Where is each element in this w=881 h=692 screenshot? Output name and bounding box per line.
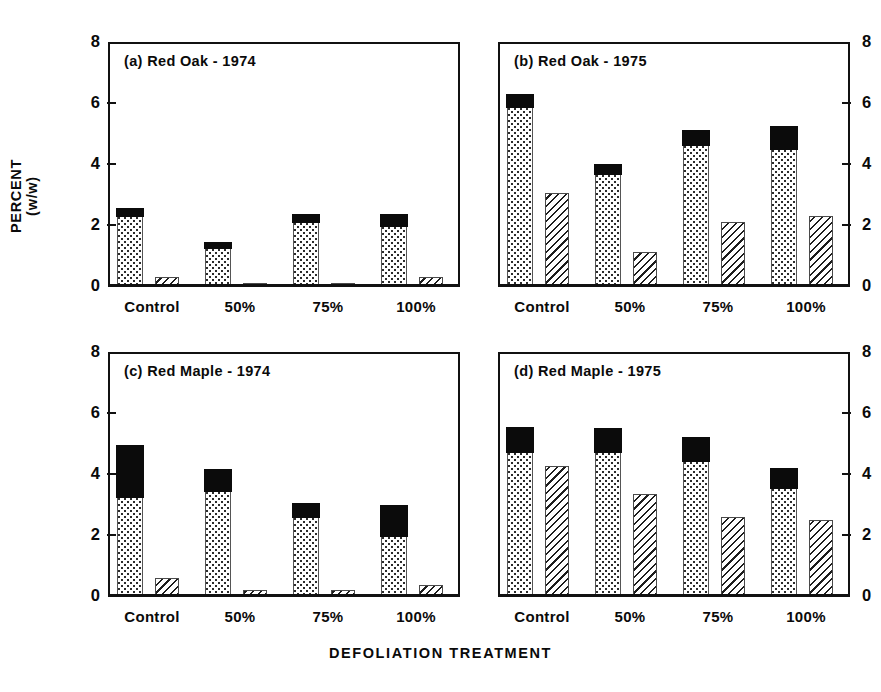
bar-black-a-0 <box>116 208 144 217</box>
bar-black-b-2 <box>682 130 710 145</box>
y-tick-c-4 <box>107 473 116 475</box>
bar-black-d-3 <box>770 468 798 489</box>
bar-hatched-d-2 <box>721 517 745 596</box>
y-tick-label-c-2: 2 <box>78 526 100 543</box>
y-tick-label-a-8: 8 <box>78 33 100 50</box>
y-tick-a-2 <box>107 224 116 226</box>
bar-hatched-d-1 <box>633 494 657 596</box>
y-tick-label-a-4: 4 <box>78 155 100 172</box>
bar-black-d-1 <box>594 428 622 452</box>
bar-dotted-d-2 <box>683 462 709 596</box>
y-tick-label-c-4: 4 <box>78 465 100 482</box>
y-tick-b-6 <box>842 102 851 104</box>
caption-sliver <box>0 681 881 692</box>
y-tick-label-d-8: 8 <box>862 343 881 360</box>
panel-a: (a) Red Oak - 197402468Control50%75%100% <box>108 42 460 286</box>
bar-dotted-c-1 <box>205 492 231 596</box>
baseline-d <box>498 594 850 597</box>
baseline-a <box>108 284 460 287</box>
bar-black-c-2 <box>292 503 320 518</box>
bar-dotted-a-3 <box>381 227 407 286</box>
y-tick-label-d-4: 4 <box>862 465 881 482</box>
bar-black-b-1 <box>594 164 622 175</box>
bar-black-c-0 <box>116 445 144 498</box>
y-tick-d-4 <box>842 473 851 475</box>
y-tick-label-c-8: 8 <box>78 343 100 360</box>
bar-black-d-2 <box>682 437 710 461</box>
bar-dotted-c-2 <box>293 518 319 596</box>
y-tick-label-d-0: 0 <box>862 587 881 604</box>
bar-black-d-0 <box>506 427 534 453</box>
y-tick-label-b-2: 2 <box>862 216 881 233</box>
bar-hatched-b-3 <box>809 216 833 286</box>
bar-dotted-b-2 <box>683 146 709 286</box>
panel-title-d: (d) Red Maple - 1975 <box>514 363 661 379</box>
bar-dotted-c-3 <box>381 537 407 596</box>
category-label-d-3: 100% <box>746 608 866 625</box>
panel-title-b: (b) Red Oak - 1975 <box>514 53 647 69</box>
y-tick-d-6 <box>842 412 851 414</box>
y-tick-b-4 <box>842 163 851 165</box>
bar-hatched-b-2 <box>721 222 745 286</box>
y-tick-label-a-0: 0 <box>78 277 100 294</box>
y-tick-label-b-6: 6 <box>862 94 881 111</box>
panel-title-a: (a) Red Oak - 1974 <box>124 53 256 69</box>
bar-black-c-3 <box>380 505 408 537</box>
y-tick-label-c-0: 0 <box>78 587 100 604</box>
bar-dotted-d-0 <box>507 453 533 596</box>
bar-dotted-b-0 <box>507 108 533 286</box>
bar-black-a-1 <box>204 242 232 250</box>
baseline-c <box>108 594 460 597</box>
plot-frame-c <box>108 352 460 596</box>
plot-frame-a <box>108 42 460 286</box>
y-tick-label-a-2: 2 <box>78 216 100 233</box>
y-tick-c-6 <box>107 412 116 414</box>
bar-dotted-d-3 <box>771 489 797 596</box>
panel-title-c: (c) Red Maple - 1974 <box>124 363 270 379</box>
bar-dotted-b-1 <box>595 175 621 286</box>
bar-dotted-a-1 <box>205 249 231 286</box>
y-tick-b-2 <box>842 224 851 226</box>
bar-hatched-b-1 <box>633 252 657 286</box>
bar-dotted-a-0 <box>117 217 143 286</box>
y-tick-d-2 <box>842 534 851 536</box>
bar-black-b-0 <box>506 94 534 108</box>
bar-dotted-a-2 <box>293 223 319 286</box>
y-tick-label-c-6: 6 <box>78 404 100 421</box>
bar-dotted-c-0 <box>117 498 143 596</box>
y-tick-label-a-6: 6 <box>78 94 100 111</box>
y-tick-a-6 <box>107 102 116 104</box>
panel-d: (d) Red Maple - 197502468Control50%75%10… <box>498 352 850 596</box>
panel-c: (c) Red Maple - 197402468Control50%75%10… <box>108 352 460 596</box>
y-axis-title: PERCENT (w/w) <box>8 96 40 296</box>
category-label-b-3: 100% <box>746 298 866 315</box>
y-tick-label-d-2: 2 <box>862 526 881 543</box>
category-label-c-3: 100% <box>356 608 476 625</box>
panel-b: (b) Red Oak - 197502468Control50%75%100% <box>498 42 850 286</box>
bar-hatched-d-0 <box>545 466 569 596</box>
bar-black-c-1 <box>204 469 232 492</box>
bar-black-b-3 <box>770 126 798 150</box>
y-tick-label-b-0: 0 <box>862 277 881 294</box>
bar-black-a-3 <box>380 214 408 226</box>
bar-dotted-d-1 <box>595 453 621 596</box>
category-label-a-3: 100% <box>356 298 476 315</box>
y-tick-label-b-4: 4 <box>862 155 881 172</box>
bar-dotted-b-3 <box>771 150 797 286</box>
y-tick-label-b-8: 8 <box>862 33 881 50</box>
y-tick-c-2 <box>107 534 116 536</box>
bar-hatched-d-3 <box>809 520 833 596</box>
figure-root: PERCENT (w/w) DEFOLIATION TREATMENT (a) … <box>0 0 881 692</box>
bar-hatched-b-0 <box>545 193 569 286</box>
x-axis-title: DEFOLIATION TREATMENT <box>0 645 881 661</box>
baseline-b <box>498 284 850 287</box>
y-tick-label-d-6: 6 <box>862 404 881 421</box>
bar-black-a-2 <box>292 214 320 223</box>
y-tick-a-4 <box>107 163 116 165</box>
